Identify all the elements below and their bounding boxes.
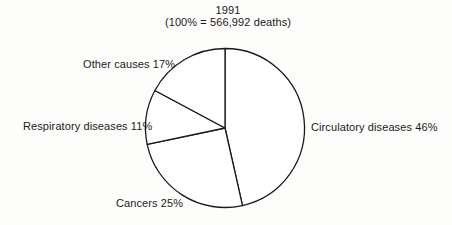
pie-chart: 1991 (100% = 566,992 deaths) Circulatory… [0,0,452,225]
label-respiratory-diseases: Respiratory diseases 11% [23,120,152,132]
label-cancers: Cancers 25% [116,197,183,209]
pie-graphic [0,0,452,225]
label-other-causes: Other causes 17% [83,58,175,70]
label-circulatory-diseases: Circulatory diseases 46% [311,121,438,133]
pie-slices [146,49,305,208]
